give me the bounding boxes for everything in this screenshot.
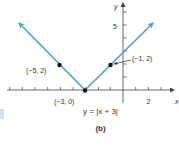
x-tick-label-2: 2	[147, 98, 151, 105]
point-left	[57, 63, 61, 67]
point-vertex	[83, 88, 87, 92]
y-tick-label-5: 5	[113, 23, 117, 30]
absolute-value-curve-left	[19, 23, 85, 90]
x-axis-label: x	[174, 98, 179, 105]
point-right-label: (−1, 2)	[132, 55, 152, 63]
equation-label: y = |x + 3|	[0, 107, 179, 116]
y-axis-label: y	[113, 3, 118, 11]
y-axis-ticks	[123, 12, 127, 77]
point-left-label: (−5, 2)	[26, 67, 46, 75]
point-vertex-label: (−3, 0)	[54, 98, 74, 106]
figure-caption: (b)	[0, 124, 179, 133]
point-right	[108, 63, 112, 67]
